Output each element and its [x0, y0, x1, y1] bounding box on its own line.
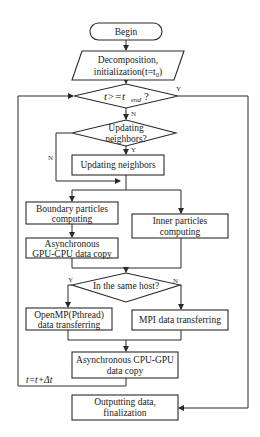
- openmp-node: OpenMP(Pthread) data transferring: [26, 308, 112, 330]
- label-host-yes: Y: [68, 276, 73, 284]
- time-check-decision: t>=t end ?: [74, 84, 178, 108]
- svg-text:initialization(t=t₀): initialization(t=t₀): [94, 67, 162, 78]
- svg-text:Updating: Updating: [108, 123, 144, 133]
- label-loop-increment: t=t+Δt: [26, 375, 53, 385]
- svg-text:Boundary particles: Boundary particles: [36, 204, 108, 214]
- svg-text:Begin: Begin: [115, 27, 138, 37]
- update-check-decision: Updating neighbors?: [72, 120, 176, 146]
- async-gpu-cpu-node: Asynchronous GPU-CPU data copy: [26, 238, 118, 259]
- svg-text:neighbors?: neighbors?: [105, 134, 147, 144]
- svg-text:data copy: data copy: [107, 366, 144, 376]
- svg-text:?: ?: [144, 90, 149, 102]
- same-host-decision: In the same host?: [72, 273, 180, 302]
- svg-text:GPU-CPU data copy: GPU-CPU data copy: [32, 249, 112, 259]
- svg-text:finalization: finalization: [103, 408, 147, 418]
- label-update-yes: Y: [131, 146, 136, 154]
- svg-text:computing: computing: [52, 214, 93, 224]
- begin-node: Begin: [90, 23, 162, 40]
- svg-text:data transferring: data transferring: [38, 320, 101, 330]
- boundary-node: Boundary particles computing: [26, 202, 118, 224]
- svg-text:computing: computing: [160, 227, 201, 237]
- flowchart: Begin Decomposition, initialization(t=t₀…: [0, 0, 260, 437]
- svg-text:Asynchronous: Asynchronous: [45, 239, 100, 249]
- output-node: Outputting data, finalization: [72, 395, 178, 420]
- svg-text:Asynchronous CPU-GPU: Asynchronous CPU-GPU: [76, 355, 174, 365]
- label-host-no: N: [173, 277, 178, 285]
- svg-text:t>=t: t>=t: [104, 90, 126, 102]
- svg-text:MPI data transferring: MPI data transferring: [139, 315, 221, 325]
- async-cpu-gpu-node: Asynchronous CPU-GPU data copy: [72, 352, 178, 378]
- svg-text:Outputting data,: Outputting data,: [94, 397, 156, 407]
- svg-text:Inner particles: Inner particles: [153, 216, 208, 226]
- mpi-node: MPI data transferring: [132, 310, 228, 330]
- svg-text:In the same host?: In the same host?: [93, 281, 159, 291]
- update-node: Updating neighbors: [72, 155, 164, 175]
- svg-text:end: end: [131, 96, 142, 104]
- svg-text:Updating neighbors: Updating neighbors: [80, 160, 156, 170]
- label-update-no: N: [48, 154, 53, 162]
- inner-node: Inner particles computing: [132, 214, 228, 238]
- label-time-yes: Y: [176, 85, 181, 93]
- init-node: Decomposition, initialization(t=t₀): [72, 51, 184, 80]
- svg-text:Decomposition,: Decomposition,: [98, 55, 158, 65]
- label-time-no: N: [131, 110, 136, 118]
